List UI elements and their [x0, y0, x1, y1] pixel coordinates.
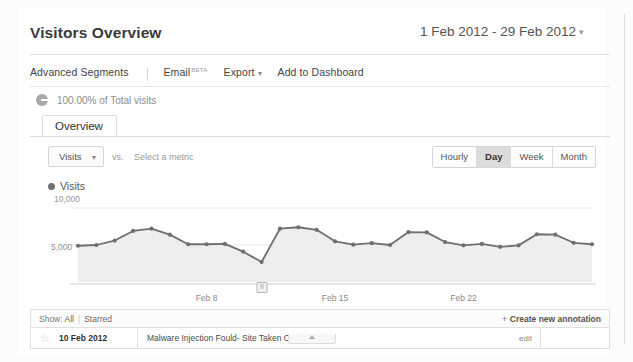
- chevron-down-icon: ▾: [258, 69, 262, 78]
- secondary-metric-selector[interactable]: Select a metric: [134, 152, 194, 162]
- filter-separator: |: [78, 314, 80, 324]
- granularity-month-button[interactable]: Month: [553, 147, 595, 167]
- create-annotation-label: Create new annotation: [510, 314, 601, 324]
- annotations-filter: Show: All|Starred: [39, 314, 112, 324]
- report-header: Visitors Overview 1 Feb 2012 - 29 Feb 20…: [18, 24, 606, 54]
- show-label: Show:: [39, 314, 63, 324]
- chevron-down-icon: ▾: [92, 153, 96, 162]
- timeline-slider-handle[interactable]: [256, 282, 267, 293]
- granularity-button-group: Hourly Day Week Month: [432, 146, 596, 168]
- chevron-down-icon: ▾: [579, 27, 584, 37]
- panel-right-divider: [624, 14, 625, 344]
- filter-all-link[interactable]: All: [65, 314, 74, 324]
- date-range-label: 1 Feb 2012 - 29 Feb 2012: [420, 24, 576, 39]
- email-label: Email: [163, 66, 190, 78]
- chart-legend: Visits: [48, 179, 85, 192]
- chart-plot-svg: [30, 194, 610, 294]
- chevron-up-icon: [309, 335, 315, 339]
- header-divider: [30, 54, 610, 55]
- granularity-hourly-button[interactable]: Hourly: [433, 147, 477, 167]
- metric-controls: Visits▾ vs. Select a metric Hourly Day W…: [30, 146, 610, 170]
- analytics-page: Visitors Overview 1 Feb 2012 - 29 Feb 20…: [0, 0, 633, 362]
- email-button[interactable]: EmailBETA: [163, 66, 207, 78]
- x-axis-tick-label: Feb 22: [450, 293, 476, 303]
- page-title: Visitors Overview: [30, 24, 162, 42]
- x-axis-labels: Feb 8Feb 15Feb 22: [30, 293, 610, 307]
- toolbar-divider: [147, 68, 148, 81]
- tabs-underline: [30, 136, 610, 137]
- advanced-segments-button[interactable]: Advanced Segments: [30, 66, 129, 78]
- vs-label: vs.: [112, 152, 124, 162]
- annotation-spacer-cell: [540, 328, 609, 348]
- star-icon[interactable]: ☆: [31, 333, 59, 344]
- primary-metric-label: Visits: [59, 151, 82, 162]
- create-annotation-button[interactable]: +Create new annotation: [502, 314, 601, 324]
- report-tabs: Overview: [30, 115, 610, 137]
- report-toolbar: Advanced Segments EmailBETA Export▾ Add …: [30, 65, 377, 81]
- beta-badge: BETA: [191, 67, 207, 73]
- export-button[interactable]: Export▾: [224, 66, 262, 78]
- x-axis-tick-label: Feb 15: [322, 293, 348, 303]
- filter-starred-link[interactable]: Starred: [84, 314, 112, 324]
- report-panel: Visitors Overview 1 Feb 2012 - 29 Feb 20…: [18, 8, 606, 356]
- primary-metric-selector[interactable]: Visits▾: [48, 146, 104, 167]
- collapse-annotations-handle[interactable]: [288, 334, 336, 344]
- plus-icon: +: [502, 314, 507, 324]
- granularity-week-button[interactable]: Week: [511, 147, 552, 167]
- tab-overview[interactable]: Overview: [42, 115, 117, 136]
- granularity-day-button[interactable]: Day: [477, 147, 511, 167]
- annotations-header: Show: All|Starred +Create new annotation: [30, 309, 610, 327]
- legend-series-label: Visits: [60, 180, 85, 192]
- add-to-dashboard-button[interactable]: Add to Dashboard: [278, 66, 364, 78]
- annotation-date: 10 Feb 2012: [59, 328, 138, 348]
- date-range-picker[interactable]: 1 Feb 2012 - 29 Feb 2012▾: [420, 24, 584, 39]
- scope-label: 100.00% of Total visits: [57, 95, 156, 106]
- export-label: Export: [224, 66, 255, 78]
- legend-dot-icon: [48, 183, 55, 190]
- x-axis-tick-label: Feb 8: [196, 293, 218, 303]
- scope-indicator: 100.00% of Total visits: [36, 94, 156, 110]
- annotation-edit-link[interactable]: edit: [519, 334, 540, 343]
- visits-line-chart[interactable]: 10,000 5,000 Feb 8Feb 15Feb 22: [30, 194, 610, 304]
- pie-chart-icon: [36, 94, 48, 106]
- toolbar-divider-line: [30, 86, 610, 87]
